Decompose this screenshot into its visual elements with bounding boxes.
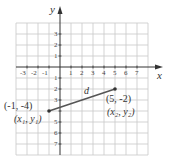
coordinate-plane bbox=[0, 0, 169, 161]
segment-label-d: d bbox=[84, 86, 89, 96]
x-tick-label: -2 bbox=[31, 70, 37, 77]
point-end bbox=[113, 87, 117, 91]
x-tick-label: -3 bbox=[20, 70, 26, 77]
x-axis-label: x bbox=[157, 70, 162, 81]
start-point-coords: (-1, -4) bbox=[4, 101, 32, 111]
y-tick-label: 2 bbox=[54, 42, 58, 49]
x-tick-label: -1 bbox=[42, 70, 48, 77]
y-axis-label: y bbox=[50, 4, 55, 15]
grid bbox=[16, 23, 148, 155]
y-tick-label: 6 bbox=[54, 130, 58, 137]
start-point-name: (x₁, y₁) bbox=[14, 114, 42, 124]
x-tick-label: 3 bbox=[91, 70, 95, 77]
end-point-name: (x₂, y₂) bbox=[107, 107, 135, 117]
x-tick-label: 2 bbox=[80, 70, 84, 77]
y-tick-label: 2 bbox=[54, 86, 58, 93]
end-point-coords: (5, -2) bbox=[106, 94, 131, 104]
x-tick-label: 4 bbox=[102, 70, 106, 77]
y-tick-label: 3 bbox=[54, 31, 58, 38]
x-tick-label: 6 bbox=[124, 70, 128, 77]
y-axis-arrow-icon bbox=[58, 6, 63, 14]
x-tick-label: 7 bbox=[135, 70, 139, 77]
point-start bbox=[47, 109, 51, 113]
y-tick-label: 1 bbox=[54, 53, 58, 60]
x-tick-label: 5 bbox=[113, 70, 117, 77]
y-tick-label: 7 bbox=[54, 141, 58, 148]
y-tick-label: 3 bbox=[54, 97, 58, 104]
y-tick-label: 1 bbox=[54, 75, 58, 82]
x-tick-label: 1 bbox=[69, 70, 73, 77]
y-tick-label: 5 bbox=[54, 119, 58, 126]
